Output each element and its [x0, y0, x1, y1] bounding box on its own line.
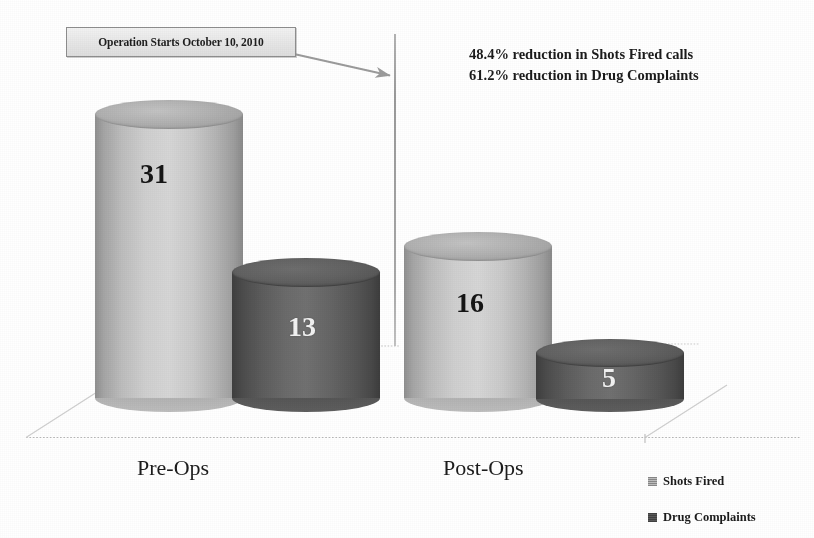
legend-label: Drug Complaints — [663, 510, 756, 525]
annotation-drug-complaints: 61.2% reduction in Drug Complaints — [469, 65, 699, 86]
reduction-annotations: 48.4% reduction in Shots Fired calls 61.… — [469, 44, 699, 86]
legend-item-shots-fired[interactable]: Shots Fired — [648, 474, 756, 489]
legend-item-drug-complaints[interactable]: Drug Complaints — [648, 510, 756, 525]
annotation-shots-fired: 48.4% reduction in Shots Fired calls — [469, 44, 699, 65]
legend-label: Shots Fired — [663, 474, 724, 489]
legend-swatch-icon — [648, 513, 657, 522]
callout-label: Operation Starts October 10, 2010 — [98, 36, 263, 48]
chart-canvas: 31 13 16 5 Operation Starts October 10, … — [0, 0, 814, 538]
legend-swatch-icon — [648, 477, 657, 486]
chart-legend: Shots Fired Drug Complaints — [648, 474, 756, 538]
callout-operation-start[interactable]: Operation Starts October 10, 2010 — [66, 27, 296, 57]
callout-arrow-line — [294, 54, 390, 76]
